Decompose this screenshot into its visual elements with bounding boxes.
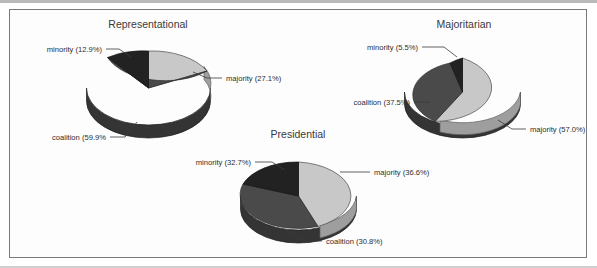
leader-minority-majoritarian	[422, 47, 457, 57]
label-majority-majoritarian: majority (57.0%)	[530, 125, 586, 134]
label-majority-presidential: majority (36.6%)	[374, 168, 430, 177]
label-minority-presidential: minority (32.7%)	[196, 158, 252, 167]
figure-canvas: Representational minority (12.9%) majori…	[0, 0, 597, 268]
slice-side-coalition-representational	[87, 88, 211, 138]
chart-representational: Representational minority (12.9%) majori…	[47, 18, 282, 142]
chart-title-presidential: Presidential	[271, 128, 326, 140]
slice-minority-representational	[108, 51, 149, 88]
chart-title-representational: Representational	[108, 18, 187, 30]
chart-title-majoritarian: Majoritarian	[437, 18, 492, 30]
chart-majoritarian: Majoritarian minority (5.5%) coalition (…	[353, 18, 585, 138]
label-coalition-representational: coalition (59.9%	[52, 133, 106, 142]
label-minority-representational: minority (12.9%)	[47, 45, 103, 54]
pie-charts-svg: Representational minority (12.9%) majori…	[0, 0, 597, 268]
label-majority-representational: majority (27.1%)	[226, 74, 282, 83]
label-coalition-presidential: coalition (30.8%)	[326, 237, 383, 246]
chart-presidential: Presidential minority (32.7%) majority (…	[196, 128, 430, 246]
label-minority-majoritarian: minority (5.5%)	[367, 43, 419, 52]
label-coalition-majoritarian: coalition (37.5%)	[353, 98, 410, 107]
